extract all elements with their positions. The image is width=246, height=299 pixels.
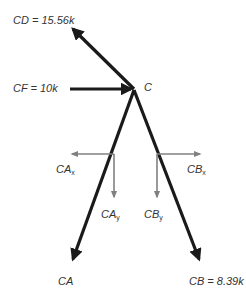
label-ca-y: CAy (101, 209, 120, 221)
free-body-diagram (0, 0, 246, 299)
label-joint-c: C (144, 82, 152, 93)
label-cb-y: CBy (144, 209, 163, 221)
label-ca-x: CAx (56, 164, 75, 176)
label-cb-x: CBx (187, 164, 206, 176)
member-cd-arrow (73, 29, 134, 89)
label-cf: CF = 10k (13, 83, 58, 94)
label-ca: CA (58, 276, 73, 287)
label-cd: CD = 15.56k (13, 15, 74, 26)
member-ca-arrow (73, 90, 134, 259)
label-cb: CB = 8.39k (189, 276, 244, 287)
